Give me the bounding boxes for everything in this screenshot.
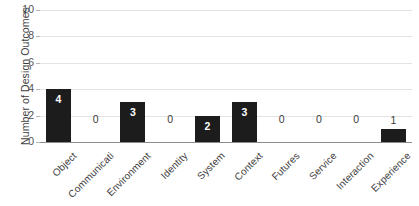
bar[interactable]: 2 <box>195 116 220 142</box>
bar-chart: Number of Design Outcomes 4030230001 024… <box>0 0 419 206</box>
plot-area: 4030230001 <box>40 4 412 146</box>
y-tick-label: 0 <box>12 135 34 147</box>
x-axis-category-label: Object <box>50 150 79 179</box>
bar-slot: 3 <box>114 4 151 142</box>
x-axis-category-label: Service <box>307 150 339 182</box>
y-tick-label: 4 <box>12 82 34 94</box>
bar-value-label: 2 <box>195 120 220 132</box>
y-tick-label: 2 <box>12 109 34 121</box>
y-tick-mark <box>36 116 40 117</box>
bar-value-label: 0 <box>269 113 294 125</box>
y-axis-title: Number of Design Outcomes <box>19 1 33 151</box>
bar-slot: 0 <box>300 4 337 142</box>
bar-value-label: 0 <box>306 113 331 125</box>
bar-value-label: 3 <box>232 106 257 118</box>
x-axis-line <box>40 142 412 143</box>
bar-value-label: 0 <box>158 113 183 125</box>
x-axis-category-label: Futures <box>269 150 301 182</box>
y-tick-label: 10 <box>12 3 34 15</box>
y-tick-mark <box>36 36 40 37</box>
bar[interactable]: 3 <box>232 102 257 142</box>
bar[interactable]: 3 <box>120 102 145 142</box>
bar-slot: 0 <box>338 4 375 142</box>
y-tick-label: 6 <box>12 56 34 68</box>
bar-value-label: 4 <box>46 93 71 105</box>
bar-value-label: 1 <box>381 114 406 126</box>
y-tick-mark <box>36 89 40 90</box>
bar-slot: 0 <box>77 4 114 142</box>
x-axis-category-label: Context <box>232 150 265 183</box>
y-tick-label: 8 <box>12 29 34 41</box>
bar[interactable] <box>381 129 406 142</box>
y-tick-mark <box>36 142 40 143</box>
x-axis-category-label: Identity <box>159 150 190 181</box>
x-axis-category-label: System <box>195 150 227 182</box>
x-axis-category-labels: ObjectCommunicatiEnvironmentIdentitySyst… <box>40 148 412 206</box>
bar[interactable]: 4 <box>46 89 71 142</box>
y-tick-mark <box>36 10 40 11</box>
bar-slot: 0 <box>152 4 189 142</box>
x-axis-category-label: Experience <box>369 150 413 194</box>
bar-value-label: 0 <box>83 113 108 125</box>
bar-slot: 3 <box>226 4 263 142</box>
y-tick-mark <box>36 63 40 64</box>
bar-slot: 0 <box>263 4 300 142</box>
bar-value-label: 3 <box>120 106 145 118</box>
bar-value-label: 0 <box>344 113 369 125</box>
bar-slot: 2 <box>189 4 226 142</box>
bar-slot: 1 <box>375 4 412 142</box>
bar-slot: 4 <box>40 4 77 142</box>
